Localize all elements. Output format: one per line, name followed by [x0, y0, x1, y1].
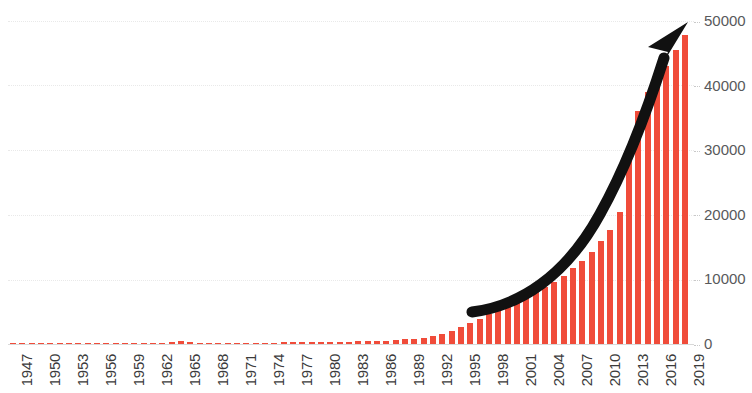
bar	[281, 342, 287, 344]
x-axis-tick-label: 1971	[243, 354, 258, 386]
y-axis-tick-label: 0	[694, 336, 752, 351]
bar	[85, 343, 91, 345]
bar	[159, 343, 165, 345]
bar	[122, 343, 128, 345]
bar	[225, 343, 231, 345]
plot-area	[8, 14, 694, 351]
y-axis-tick-label: 10000	[694, 271, 752, 286]
y-axis-tick-label: 40000	[694, 78, 752, 93]
x-axis-tick-label: 2001	[523, 354, 538, 386]
x-axis-tick-label: 1962	[159, 354, 174, 386]
y-axis-tickmark	[694, 215, 700, 216]
bar	[57, 343, 63, 345]
bar	[299, 342, 305, 344]
bar	[383, 341, 389, 344]
x-axis-tick-label: 2016	[663, 354, 678, 386]
bar	[626, 150, 632, 344]
bar	[654, 84, 660, 344]
bar	[617, 212, 623, 344]
bar	[318, 342, 324, 344]
bar	[290, 342, 296, 344]
bar	[355, 341, 361, 344]
y-axis-tickmark	[694, 345, 700, 346]
bar	[94, 343, 100, 345]
bar	[150, 343, 156, 345]
bar	[607, 230, 613, 344]
bar	[439, 334, 445, 344]
bar	[533, 292, 539, 344]
bar	[253, 343, 259, 345]
x-axis-tick-label: 1974	[271, 354, 286, 386]
bar	[309, 342, 315, 344]
x-axis-tick-label: 1968	[215, 354, 230, 386]
x-axis: 1947195019531956195919621965196819711974…	[0, 352, 752, 393]
bar	[505, 306, 511, 344]
x-axis-tick-label: 1995	[467, 354, 482, 386]
bar	[131, 343, 137, 345]
bar	[514, 301, 520, 344]
bar	[374, 341, 380, 344]
bar	[243, 343, 249, 345]
y-axis-tick-text: 10000	[704, 270, 746, 287]
y-axis-tickmark	[694, 86, 700, 87]
bar	[551, 282, 557, 344]
x-axis-tick-label: 1980	[327, 354, 342, 386]
x-axis-tick-label: 1947	[19, 354, 34, 386]
bar	[682, 35, 688, 344]
bar	[234, 343, 240, 345]
x-axis-tick-label: 1992	[439, 354, 454, 386]
x-axis-tick-label: 2010	[607, 354, 622, 386]
y-axis-tick-text: 20000	[704, 206, 746, 223]
bar	[486, 314, 492, 344]
bar	[477, 319, 483, 344]
x-axis-tick-label: 1959	[131, 354, 146, 386]
bar-series	[8, 14, 694, 351]
y-axis-tick-text: 30000	[704, 141, 746, 158]
y-axis-tickmark	[694, 22, 700, 23]
x-axis-tick-label: 1989	[411, 354, 426, 386]
x-axis-tick-label: 1998	[495, 354, 510, 386]
y-axis-tickmark	[694, 280, 700, 281]
bar	[19, 343, 25, 345]
bar	[467, 323, 473, 344]
x-axis-tick-label: 1965	[187, 354, 202, 386]
bar	[29, 343, 35, 345]
bar	[579, 261, 585, 344]
bar	[10, 343, 16, 345]
bar	[169, 342, 175, 344]
bar	[337, 342, 343, 344]
y-axis-tickmark	[694, 151, 700, 152]
y-axis-tick-label: 20000	[694, 207, 752, 222]
bar	[523, 297, 529, 344]
bar	[411, 339, 417, 344]
bar	[262, 343, 268, 345]
bar	[66, 343, 72, 345]
x-axis-tick-label: 2004	[551, 354, 566, 386]
bar	[449, 331, 455, 344]
bar	[141, 343, 147, 345]
bar	[113, 343, 119, 345]
x-axis-tick-label: 1977	[299, 354, 314, 386]
bar	[402, 339, 408, 344]
x-axis-tick-label: 2007	[579, 354, 594, 386]
bar	[346, 342, 352, 344]
bar	[206, 343, 212, 345]
bar	[598, 241, 604, 344]
bar	[635, 111, 641, 344]
bar	[495, 310, 501, 344]
bar	[271, 343, 277, 345]
bar	[215, 343, 221, 345]
bar	[430, 336, 436, 344]
bar	[561, 276, 567, 344]
bar	[38, 343, 44, 345]
y-axis: 01000020000300004000050000	[694, 0, 752, 393]
y-axis-tick-label: 30000	[694, 142, 752, 157]
bar	[197, 343, 203, 345]
bar	[589, 252, 595, 344]
bar-chart: 01000020000300004000050000 1947195019531…	[0, 0, 752, 393]
y-axis-tick-text: 0	[704, 335, 712, 352]
bar	[365, 341, 371, 344]
x-axis-tick-label: 2019	[691, 354, 706, 386]
bar	[75, 343, 81, 345]
bar	[673, 50, 679, 344]
